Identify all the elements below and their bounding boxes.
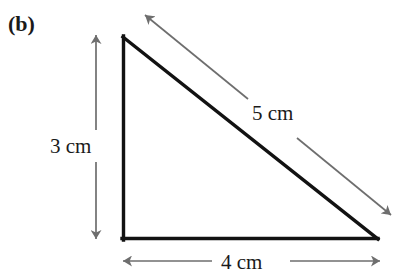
base-dimension-label: 4 cm	[216, 250, 267, 275]
triangle-hypotenuse-leg	[123, 37, 378, 239]
height-dimension-label: 3 cm	[46, 134, 95, 159]
figure-container: (b) 3 cm 4 cm 5 cm	[0, 0, 402, 279]
hypotenuse-arrow-upper-segment	[145, 15, 248, 99]
hypotenuse-arrow-lower-segment	[297, 138, 391, 215]
triangle-shape	[122, 36, 378, 240]
hypotenuse-dimension-label: 5 cm	[247, 101, 298, 126]
figure-part-label: (b)	[8, 13, 35, 35]
